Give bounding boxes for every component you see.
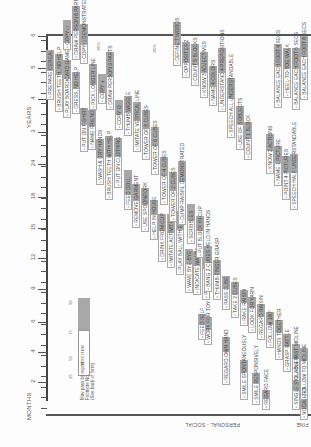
major-tick bbox=[38, 382, 47, 383]
item-label: ▫ KNOW 2 ACTIONS bbox=[266, 126, 274, 172]
item-label: ▫ REGARD RAISIN bbox=[257, 295, 265, 338]
minor-tick bbox=[41, 313, 47, 314]
minor-tick bbox=[41, 355, 47, 356]
item-label: ▫ PUT ON T-SHIRT bbox=[80, 107, 88, 150]
test-item: ▫ BRUSH TEETH, NO HELP bbox=[55, 54, 63, 112]
legend-pct-25: 25 bbox=[68, 374, 73, 378]
test-item: ▫ SINGLE SYLLABLES bbox=[292, 380, 300, 410]
test-item: ▫ DRAW PERSON 3 PARTS bbox=[106, 52, 114, 110]
item-label: ▫ FOLLOW 180° bbox=[266, 310, 274, 346]
item-label: ▫ BALANCE EACH FOOT 5 SECS bbox=[292, 32, 300, 108]
test-item: ▫ HANDS TOGETHER bbox=[275, 320, 283, 360]
item-label: ▫ DRINK FROM CUP bbox=[158, 213, 166, 260]
tick-label: 5 bbox=[30, 60, 36, 74]
item-label: ▫ VOCALIZES bbox=[300, 387, 308, 418]
test-item: ▫ SPEECH ALL UNDERSTANDABLE bbox=[227, 78, 235, 138]
minor-tick bbox=[41, 366, 47, 367]
test-item: ▫ COPY + bbox=[98, 74, 106, 104]
item-label: ▫ SMILE RESPONSIVELY bbox=[252, 345, 260, 403]
minor-tick bbox=[41, 282, 47, 283]
test-item: ▫ PREPARE CEREAL bbox=[46, 50, 54, 100]
item-label: ▫ PICK LONGER LINE bbox=[89, 58, 97, 108]
minor-tick bbox=[41, 135, 47, 136]
test-item: ▫ LOOK FOR YARN bbox=[248, 297, 256, 333]
minor-tick bbox=[41, 40, 47, 41]
item-label: ▫ REGARD FACE bbox=[262, 369, 270, 408]
minor-tick bbox=[41, 187, 47, 188]
item-label: ▫ KNOW 3 ADJECTIVES bbox=[200, 41, 208, 96]
test-item: ▫ USE OF 3 OBJECTS bbox=[236, 106, 244, 150]
item-label: ▫ PUT BLOCK IN CUP bbox=[196, 206, 204, 256]
item-label: ▫ PREPARE CEREAL bbox=[46, 50, 54, 98]
item-label: ▫ BALANCE EACH FOOT 4 SECS bbox=[274, 30, 282, 106]
major-tick bbox=[38, 228, 47, 229]
item-label: ▫ BANG 2 CUBES HELD IN HANDS bbox=[204, 210, 212, 290]
test-item: ▫ NAME 1 PICTURE bbox=[274, 146, 282, 186]
item-label: ▫ LOOK FOR YARN bbox=[248, 287, 256, 331]
item-label: ▫ REGARD OWN HAND bbox=[222, 329, 230, 383]
percent-mark: 85% bbox=[96, 42, 101, 50]
item-label: ▫ GRASP RATTLE bbox=[283, 329, 291, 370]
item-label: ▫ HEEL-TO-TOE WALK bbox=[283, 44, 291, 96]
percent-mark: 85% bbox=[152, 44, 157, 52]
test-item: ▫ BALANCE EACH FOOT 5 SECS bbox=[292, 48, 300, 110]
test-item: ▫ PUT ON CLOTHING bbox=[114, 138, 122, 188]
minor-tick bbox=[41, 208, 47, 209]
legend-grey-bar bbox=[78, 298, 90, 330]
sector-label-fine-motor: FINE bbox=[296, 422, 309, 428]
item-label: ▫ RAKE RAISIN bbox=[240, 289, 248, 324]
minor-tick bbox=[41, 103, 47, 104]
item-label: ▫ WASH & DRY HANDS bbox=[96, 130, 104, 183]
item-label: ▫ DRAW PERSON 3 PARTS bbox=[106, 45, 114, 108]
test-item: ▫ COUNT 5 BLOCKS bbox=[191, 44, 199, 86]
item-label: ▫ TOWER OF 8 CUBES bbox=[142, 105, 150, 158]
minor-tick bbox=[41, 114, 47, 115]
major-tick bbox=[38, 132, 47, 133]
legend-pct-75: 75 bbox=[68, 330, 73, 334]
minor-tick bbox=[41, 324, 47, 325]
minor-tick bbox=[41, 387, 47, 388]
test-item: ▫ BRUSH TEETH WITH HELP bbox=[105, 136, 113, 200]
test-item: ▫ HEEL-TO-TOE WALK bbox=[283, 48, 291, 98]
test-item: ▫ THUMB-FINGER GRASP bbox=[213, 260, 221, 300]
test-item: ▫ GRASP RATTLE bbox=[283, 334, 291, 372]
test-item: ▫ REMOVE GARMENT bbox=[132, 184, 140, 228]
tick-label: 4 bbox=[30, 344, 36, 358]
item-label: ▫ BALANCE EACH FOOT 6 SECS bbox=[300, 22, 308, 98]
item-label: ▫ FEED DOLL bbox=[124, 177, 132, 208]
minor-tick bbox=[41, 376, 47, 377]
test-item: ▫ REGARD RAISIN bbox=[257, 304, 265, 340]
minor-tick bbox=[41, 124, 47, 125]
item-label: ▫ FEED SELF bbox=[198, 308, 206, 338]
item-label: ▫ DUMP RAISIN, DEMONSTRATED bbox=[178, 143, 186, 223]
test-item: ▫ SCRIBBLES bbox=[187, 204, 195, 244]
test-item: ▫ FEED DOLL bbox=[124, 170, 132, 210]
test-item: ▫ IMITATE ACTIVITIES bbox=[167, 214, 175, 268]
test-item: ▫ RAKE RAISIN bbox=[240, 290, 248, 326]
tick-label: 9 bbox=[30, 281, 36, 295]
test-item: ▫ UNDERSTAND 4 PREPOSITIONS bbox=[218, 48, 226, 112]
test-item: ▫ KNOW 3 ADJECTIVES bbox=[200, 52, 208, 98]
major-tick bbox=[38, 322, 47, 323]
item-label: ▫ BRUSH TEETH, NO HELP bbox=[55, 47, 63, 110]
months-axis-title: MONTHS bbox=[26, 392, 32, 420]
test-item: ▫ COPY □ bbox=[63, 20, 71, 50]
minor-tick bbox=[41, 345, 47, 346]
item-label: ▫ USE SPOON/FORK bbox=[141, 182, 149, 230]
item-label: ▫ TOWER OF 4 CUBES bbox=[160, 150, 168, 203]
test-item: ▫ PUT ON T-SHIRT bbox=[80, 108, 88, 152]
minor-tick bbox=[41, 292, 47, 293]
item-label: ▫ COPY + bbox=[98, 80, 106, 102]
minor-tick bbox=[41, 303, 47, 304]
major-tick bbox=[38, 258, 47, 259]
item-label: ▫ USE OF 3 OBJECTS bbox=[236, 98, 244, 148]
test-item: ▫ SPEECH HALF UNDERSTANDABLE bbox=[290, 154, 298, 210]
tick-label: 2 bbox=[30, 374, 36, 388]
test-item: ▫ DRAW PERSON 6 PARTS bbox=[72, 6, 80, 60]
item-label: ▫ TAKE 2 CUBES bbox=[231, 277, 239, 316]
tick-label: 24 bbox=[30, 156, 36, 170]
item-label: ▫ NAME FRIEND bbox=[88, 110, 96, 148]
test-item: ▫ DRESS, NO HELP bbox=[72, 72, 80, 114]
item-label: ▫ COPY □ DEMONSTRATED bbox=[80, 0, 88, 62]
bottom-border-line bbox=[46, 414, 311, 416]
